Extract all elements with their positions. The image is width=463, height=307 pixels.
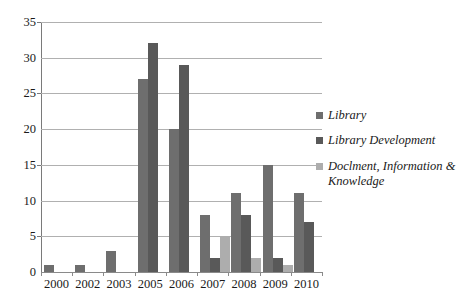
- bar-group: [41, 22, 72, 272]
- bar-chart: 05101520253035 2000200220032005200620072…: [0, 0, 463, 307]
- bar-group: [260, 22, 291, 272]
- legend-item: Library: [316, 108, 461, 123]
- y-tick-label: 30: [24, 52, 37, 65]
- bar: [231, 193, 241, 272]
- x-tick-mark: [135, 272, 136, 276]
- bar: [75, 265, 85, 272]
- bar-group: [72, 22, 103, 272]
- bar: [273, 258, 283, 272]
- x-tick-mark: [197, 272, 198, 276]
- bar: [148, 43, 158, 272]
- y-tick-label: 35: [24, 16, 37, 29]
- x-tick-label: 2009: [260, 278, 291, 291]
- y-tick-label: 15: [24, 159, 37, 172]
- x-tick-mark: [41, 272, 42, 276]
- bar-group: [197, 22, 228, 272]
- bar: [200, 215, 210, 272]
- plot-area: [41, 22, 322, 272]
- x-tick-label: 2008: [228, 278, 259, 291]
- x-tick-mark: [291, 272, 292, 276]
- legend-swatch-icon: [316, 112, 323, 119]
- bar: [304, 222, 314, 272]
- bar: [210, 258, 220, 272]
- x-tick-label: 2010: [291, 278, 322, 291]
- x-tick-mark: [166, 272, 167, 276]
- legend-label: Library: [328, 108, 366, 123]
- bar: [138, 79, 148, 272]
- bar: [263, 165, 273, 272]
- x-tick-mark: [72, 272, 73, 276]
- y-tick-label: 10: [24, 195, 37, 208]
- bar-group: [103, 22, 134, 272]
- bar: [294, 193, 304, 272]
- x-tick-mark: [103, 272, 104, 276]
- x-tick-label: 2000: [41, 278, 72, 291]
- x-tick-mark: [260, 272, 261, 276]
- legend-label: Library Development: [328, 133, 435, 148]
- bar: [106, 251, 116, 272]
- x-tick-mark: [228, 272, 229, 276]
- bar: [169, 129, 179, 272]
- bar-group: [228, 22, 259, 272]
- x-tick-label: 2002: [72, 278, 103, 291]
- bar: [241, 215, 251, 272]
- legend-item: Library Development: [316, 133, 461, 148]
- x-tick-label: 2007: [197, 278, 228, 291]
- legend-item: Doclment, Information & Knowledge: [316, 159, 461, 190]
- x-tick-label: 2003: [103, 278, 134, 291]
- bar: [44, 265, 54, 272]
- legend-label: Doclment, Information & Knowledge: [328, 159, 461, 190]
- y-tick-label: 0: [30, 266, 36, 279]
- chart-legend: LibraryLibrary DevelopmentDoclment, Info…: [316, 108, 461, 199]
- y-tick-label: 20: [24, 123, 37, 136]
- x-tick-label: 2005: [135, 278, 166, 291]
- y-tick-label: 25: [24, 87, 37, 100]
- legend-swatch-icon: [316, 137, 323, 144]
- legend-swatch-icon: [316, 163, 323, 170]
- gridline: [41, 272, 322, 273]
- x-tick-label: 2006: [166, 278, 197, 291]
- bar-group: [135, 22, 166, 272]
- bar: [179, 65, 189, 272]
- y-tick-label: 5: [30, 230, 36, 243]
- bar-group: [166, 22, 197, 272]
- x-tick-mark: [322, 272, 323, 276]
